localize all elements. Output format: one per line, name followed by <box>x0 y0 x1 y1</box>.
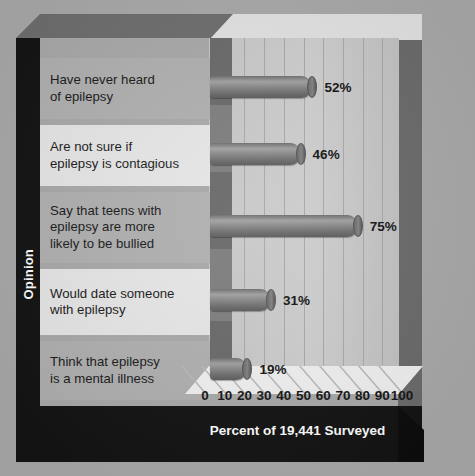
plot-top-face <box>209 14 422 40</box>
y-axis-title: Opinion <box>21 256 36 300</box>
category-label-line: epilepsy is contagious <box>50 156 210 173</box>
x-tick-label: 60 <box>316 388 331 403</box>
x-tick-label: 90 <box>375 388 390 403</box>
chart-figure: Have never heardof epilepsyAre not sure … <box>0 0 475 476</box>
category-label-line: of epilepsy <box>50 89 210 106</box>
bar-value-label: 31% <box>283 293 310 308</box>
x-tick-label: 50 <box>296 388 311 403</box>
bar <box>210 358 247 380</box>
category-label-panel: Have never heardof epilepsyAre not sure … <box>40 58 210 406</box>
x-tick-label: 20 <box>237 388 252 403</box>
category-label-line: Have never heard <box>50 72 210 89</box>
category-label-line: Would date someone <box>50 286 210 303</box>
category-label-line: with epilepsy <box>50 302 210 319</box>
bar-value-label: 46% <box>313 147 340 162</box>
x-tick-label: 100 <box>391 388 414 403</box>
bar <box>210 76 312 98</box>
bar-end-cap <box>353 215 363 237</box>
x-tick-label: 30 <box>257 388 272 403</box>
bar-value-label: 19% <box>259 362 286 377</box>
bar <box>210 143 301 165</box>
category-label-line: epilepsy are more <box>50 219 210 236</box>
x-axis-title: Percent of 19,441 Surveyed <box>190 423 405 438</box>
bar-end-cap <box>296 143 306 165</box>
category-row: Say that teens withepilepsy are morelike… <box>40 192 210 263</box>
bar-end-cap <box>266 289 276 311</box>
category-label-line: likely to be bullied <box>50 236 210 253</box>
category-row: Have never heardof epilepsy <box>40 58 210 119</box>
gridline <box>363 38 364 368</box>
category-label-line: Say that teens with <box>50 203 210 220</box>
x-tick-label: 70 <box>335 388 350 403</box>
x-axis-tick-labels: 0102030405060708090100 <box>196 388 416 406</box>
bar-value-label: 75% <box>370 219 397 234</box>
category-row: Would date someonewith epilepsy <box>40 269 210 335</box>
category-label-line: Are not sure if <box>50 139 210 156</box>
x-tick-label: 0 <box>201 388 209 403</box>
x-tick-label: 10 <box>217 388 232 403</box>
bar <box>210 289 271 311</box>
category-row: Are not sure ifepilepsy is contagious <box>40 125 210 186</box>
x-tick-label: 40 <box>276 388 291 403</box>
bar-value-label: 52% <box>324 80 351 95</box>
x-tick-label: 80 <box>355 388 370 403</box>
bar <box>210 215 358 237</box>
gridline <box>382 38 383 368</box>
y-axis-title-band <box>16 38 40 425</box>
side-wall-step <box>210 172 232 249</box>
